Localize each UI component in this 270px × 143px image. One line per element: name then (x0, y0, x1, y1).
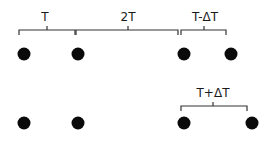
dot-bottom-1 (18, 117, 31, 130)
dot-bottom-2 (72, 117, 85, 130)
bracket-t (19, 26, 75, 35)
label-t-minus-dt: T-ΔT (191, 10, 219, 24)
dot-top-2 (72, 48, 85, 61)
dot-top-3 (178, 48, 191, 61)
diagram-canvas: T 2T T-ΔT T+ΔT (0, 0, 270, 143)
bracket-t-minus-dt (181, 26, 226, 35)
dot-bottom-3 (178, 117, 191, 130)
dot-top-4 (225, 48, 238, 61)
bracket-2t (76, 26, 178, 35)
label-t-plus-dt: T+ΔT (196, 86, 231, 100)
dot-top-1 (18, 48, 31, 61)
label-2t: 2T (121, 10, 137, 24)
dot-bottom-4 (246, 117, 259, 130)
bracket-t-plus-dt (181, 102, 247, 111)
label-t: T (40, 10, 49, 24)
timing-diagram: T 2T T-ΔT T+ΔT (0, 0, 270, 143)
